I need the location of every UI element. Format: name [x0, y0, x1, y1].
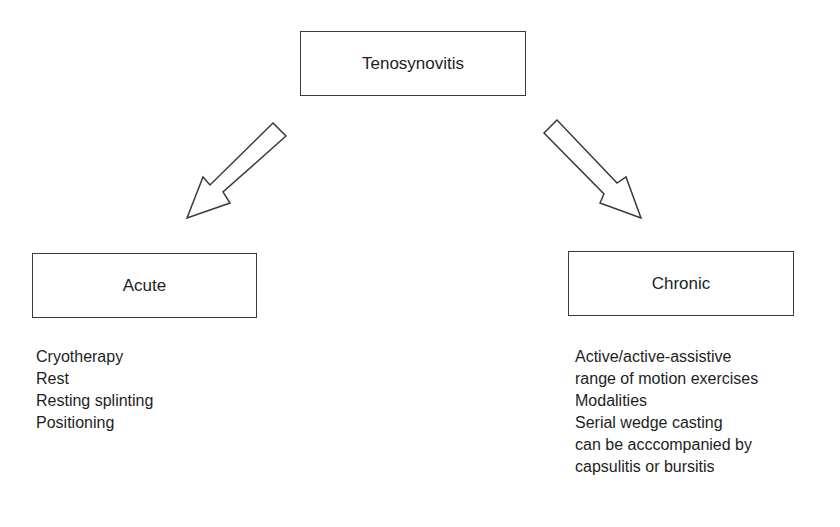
list-item: can be acccompanied by: [575, 434, 758, 456]
list-item: Positioning: [36, 412, 153, 434]
arrow-to-chronic-icon: [544, 120, 641, 218]
arrow-to-acute-icon: [187, 123, 286, 218]
acute-node-label: Acute: [123, 276, 166, 296]
list-item: Resting splinting: [36, 390, 153, 412]
list-item: Modalities: [575, 390, 758, 412]
acute-treatment-list: Cryotherapy Rest Resting splinting Posit…: [36, 346, 153, 434]
chronic-node-label: Chronic: [652, 274, 711, 294]
list-item: Cryotherapy: [36, 346, 153, 368]
branch-node-acute: Acute: [32, 253, 257, 318]
branch-node-chronic: Chronic: [568, 251, 794, 316]
list-item: Serial wedge casting: [575, 412, 758, 434]
list-item: range of motion exercises: [575, 368, 758, 390]
chronic-treatment-list: Active/active-assistive range of motion …: [575, 346, 758, 478]
list-item: capsulitis or bursitis: [575, 456, 758, 478]
list-item: Active/active-assistive: [575, 346, 758, 368]
list-item: Rest: [36, 368, 153, 390]
root-node-tenosynovitis: Tenosynovitis: [300, 31, 526, 96]
root-node-label: Tenosynovitis: [362, 54, 464, 74]
